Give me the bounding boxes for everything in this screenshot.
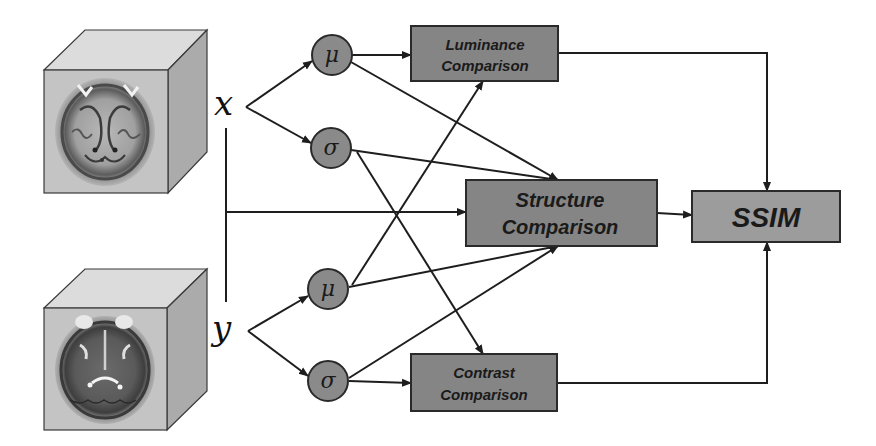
box-label-line2: Comparison [502, 216, 619, 238]
box-label-line2: Comparison [440, 386, 528, 403]
brain-scan-x-image [55, 78, 155, 186]
box-label-line1: Structure [516, 189, 605, 211]
stat-node-sigma-x: σ [311, 128, 351, 168]
input-label-y: y [210, 308, 232, 348]
sigma-symbol: σ [323, 135, 339, 160]
edge-luminance-to-ssim [558, 53, 767, 191]
input-cube-y [44, 269, 207, 430]
edge-y-fork-upper [248, 296, 308, 331]
input-cube-x [44, 30, 207, 193]
luminance-comparison-box: Luminance Comparison [411, 26, 558, 81]
box-label-line1: Luminance [445, 36, 524, 53]
box-label-line2: Comparison [441, 57, 529, 74]
ssim-label: SSIM [732, 202, 801, 233]
ssim-output-box: SSIM [692, 191, 840, 242]
mu-symbol: μ [321, 276, 335, 301]
mu-symbol: μ [325, 42, 339, 67]
edge-sigma-y-to-contrast [349, 381, 411, 383]
edge-sigma-x-to-structure [351, 150, 558, 180]
stat-node-mu-x: μ [312, 35, 352, 75]
structure-comparison-box: Structure Comparison [466, 180, 657, 246]
edge-mu-y-to-luminance [352, 81, 483, 285]
edge-contrast-to-ssim [557, 242, 767, 383]
edge-sigma-x-to-contrast [357, 152, 483, 354]
edge-structure-to-ssim [657, 213, 692, 215]
stat-node-mu-y: μ [308, 269, 348, 309]
edge-x-fork-upper [246, 61, 312, 107]
contrast-comparison-box: Contrast Comparison [411, 354, 557, 411]
sigma-symbol: σ [320, 368, 336, 393]
ssim-diagram: x y μ σ μ [0, 0, 876, 446]
box-label-line1: Contrast [453, 364, 516, 381]
stat-node-sigma-y: σ [308, 361, 348, 401]
input-label-x: x [214, 83, 233, 123]
edge-y-fork-lower [248, 331, 308, 376]
edge-x-fork-lower [246, 107, 311, 143]
